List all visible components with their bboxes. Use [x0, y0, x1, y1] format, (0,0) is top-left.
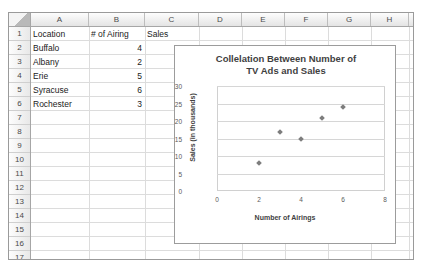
chart-title-line-2: TV Ads and Sales [181, 65, 391, 77]
gridline [217, 86, 385, 87]
cell-b5[interactable]: 6 [89, 83, 144, 97]
row-header-16[interactable]: 16 [9, 237, 30, 251]
grid-vline [145, 27, 146, 259]
y-axis-tick: 20 [160, 118, 182, 125]
row-header-8[interactable]: 8 [9, 125, 30, 139]
select-all-corner[interactable] [9, 13, 31, 26]
scatter-chart[interactable]: Collelation Between Number of TV Ads and… [174, 45, 396, 244]
y-axis-tick: 10 [160, 153, 182, 160]
y-axis-tick: 30 [160, 83, 182, 90]
cell-a3[interactable]: Albany [31, 55, 88, 69]
row-header-15[interactable]: 15 [9, 223, 30, 237]
grid-hline [31, 40, 413, 41]
grid-hline [31, 250, 413, 251]
column-header-a[interactable]: A [31, 13, 89, 26]
row-header-9[interactable]: 9 [9, 139, 30, 153]
cell-b6[interactable]: 3 [89, 97, 144, 111]
gridline [217, 174, 385, 175]
row-header-10[interactable]: 10 [9, 153, 30, 167]
y-axis-tick: 0 [160, 188, 182, 195]
cell-b4[interactable]: 5 [89, 69, 144, 83]
y-axis-tick: 25 [160, 101, 182, 108]
column-header-h[interactable]: H [371, 13, 409, 26]
x-axis-tick: 2 [251, 196, 267, 203]
column-header-e[interactable]: E [242, 13, 285, 26]
row-header-7[interactable]: 7 [9, 111, 30, 125]
gridline [217, 104, 385, 105]
column-header-c[interactable]: C [145, 13, 199, 26]
x-axis-tick: 4 [293, 196, 309, 203]
spreadsheet[interactable]: ABCDEFGHI 1234567891011121314151617 Loca… [8, 12, 414, 260]
gridline [217, 156, 385, 157]
cell-a6[interactable]: Rochester [31, 97, 88, 111]
cell-a5[interactable]: Syracuse [31, 83, 88, 97]
row-header-1[interactable]: 1 [9, 27, 30, 41]
row-header-6[interactable]: 6 [9, 97, 30, 111]
column-header-bar: ABCDEFGHI [9, 13, 413, 27]
cell-b3[interactable]: 2 [89, 55, 144, 69]
x-axis-tick: 6 [335, 196, 351, 203]
row-header-11[interactable]: 11 [9, 167, 30, 181]
row-header-12[interactable]: 12 [9, 181, 30, 195]
y-axis-tick: 15 [160, 136, 182, 143]
row-header-bar: 1234567891011121314151617 [9, 27, 31, 259]
column-header-d[interactable]: D [199, 13, 242, 26]
row-header-4[interactable]: 4 [9, 69, 30, 83]
row-header-5[interactable]: 5 [9, 83, 30, 97]
chart-title-line-1: Collelation Between Number of [181, 53, 391, 65]
y-axis-tick: 5 [160, 171, 182, 178]
cell-a2[interactable]: Buffalo [31, 41, 88, 55]
column-header-b[interactable]: B [89, 13, 145, 26]
grid-vline [409, 27, 410, 259]
column-header-i[interactable]: I [409, 13, 414, 26]
cell-a1[interactable]: Location [31, 27, 88, 41]
row-header-17[interactable]: 17 [9, 251, 30, 260]
column-header-f[interactable]: F [285, 13, 328, 26]
chart-title: Collelation Between Number of TV Ads and… [181, 53, 391, 77]
row-header-13[interactable]: 13 [9, 195, 30, 209]
row-header-2[interactable]: 2 [9, 41, 30, 55]
x-axis-title: Number of Airings [175, 214, 395, 221]
row-header-14[interactable]: 14 [9, 209, 30, 223]
row-header-3[interactable]: 3 [9, 55, 30, 69]
x-axis-tick: 8 [377, 196, 393, 203]
x-axis-tick: 0 [209, 196, 225, 203]
column-header-g[interactable]: G [328, 13, 371, 26]
grid-vline [89, 27, 90, 259]
cell-c1[interactable]: Sales [145, 27, 198, 41]
cell-a4[interactable]: Erie [31, 69, 88, 83]
y-axis-title: Sales (in thousands) [189, 80, 196, 176]
cell-b1[interactable]: # of Airing [89, 27, 144, 41]
cell-b2[interactable]: 4 [89, 41, 144, 55]
gridline [217, 121, 385, 122]
